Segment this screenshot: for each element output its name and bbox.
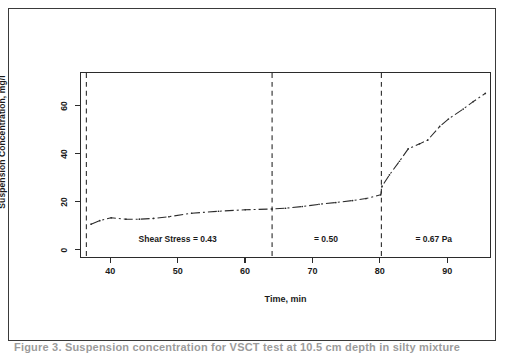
- data-point: [110, 217, 112, 219]
- data-point: [218, 210, 220, 212]
- data-point: [419, 143, 421, 145]
- data-point: [407, 148, 409, 150]
- data-point: [389, 174, 391, 176]
- figure-frame-border: Suspension Concentration, mg/l 60 40 20 …: [8, 8, 496, 341]
- data-point: [318, 203, 320, 205]
- x-tick-mark-80: [379, 258, 380, 263]
- data-point: [448, 118, 450, 120]
- shear-stress-divider-lines: [86, 73, 381, 257]
- x-tick-label-60: 60: [230, 266, 260, 276]
- x-tick-label-70: 70: [297, 266, 327, 276]
- data-point: [462, 108, 464, 110]
- data-point: [399, 160, 401, 162]
- series-line-0: [91, 93, 485, 224]
- x-tick-mark-50: [177, 258, 178, 263]
- data-series-group: [91, 93, 485, 224]
- data-point: [285, 207, 287, 209]
- y-tick-label-60: 60: [59, 95, 69, 117]
- x-tick-mark-60: [244, 258, 245, 263]
- data-point: [191, 212, 193, 214]
- data-point: [380, 194, 382, 196]
- data-point: [335, 202, 337, 204]
- data-point-markers: [90, 93, 486, 225]
- data-point: [153, 218, 155, 220]
- annotation-shear-stress-2: = 0.50: [314, 234, 338, 244]
- x-tick-label-50: 50: [163, 266, 193, 276]
- data-point: [352, 200, 354, 202]
- plot-area: [80, 72, 491, 258]
- x-axis-title: Time, min: [80, 294, 491, 304]
- x-tick-mark-40: [110, 258, 111, 263]
- x-tick-mark-90: [447, 258, 448, 263]
- x-tick-mark-70: [312, 258, 313, 263]
- data-point: [125, 218, 127, 220]
- y-tick-label-20: 20: [59, 191, 69, 213]
- data-point: [138, 218, 140, 220]
- data-point: [301, 206, 303, 208]
- data-point: [168, 216, 170, 218]
- y-tick-label-0: 0: [59, 239, 69, 261]
- data-point: [439, 126, 441, 128]
- data-point: [365, 198, 367, 200]
- figure-caption: Figure 3. Suspension concentration for V…: [14, 341, 484, 353]
- x-tick-label-90: 90: [432, 266, 462, 276]
- y-axis-title: Suspension Concentration, mg/l: [0, 49, 7, 235]
- data-point: [427, 139, 429, 141]
- annotation-shear-stress-1: Shear Stress = 0.43: [139, 234, 217, 244]
- data-point: [90, 223, 92, 225]
- data-point: [484, 93, 486, 95]
- x-tick-label-80: 80: [365, 266, 395, 276]
- data-point: [472, 101, 474, 103]
- x-tick-label-40: 40: [95, 266, 125, 276]
- data-point: [271, 208, 273, 210]
- annotation-shear-stress-3: = 0.67 Pa: [415, 234, 452, 244]
- data-point: [99, 220, 101, 222]
- y-tick-label-40: 40: [59, 143, 69, 165]
- data-point: [381, 185, 383, 187]
- data-point: [244, 209, 246, 211]
- plot-canvas: [81, 73, 490, 257]
